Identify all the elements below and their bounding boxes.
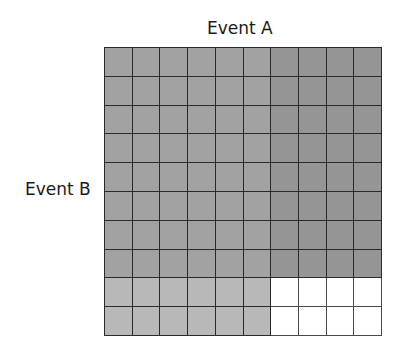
- grid-cell-A-and-B: [244, 163, 272, 192]
- grid-cell-A-and-B: [188, 192, 216, 221]
- grid-cell-B-only: [271, 192, 299, 221]
- grid-cell-A-and-B: [244, 221, 272, 250]
- grid-cell-A-and-B: [216, 134, 244, 163]
- grid-cell-A-only: [133, 307, 161, 336]
- grid-cell-A-only: [216, 278, 244, 307]
- event-a-label: Event A: [207, 20, 273, 37]
- grid-cell-B-only: [354, 163, 382, 192]
- grid-cell-A-and-B: [244, 250, 272, 279]
- grid-cell-B-only: [327, 48, 355, 77]
- grid-cell-B-only: [271, 77, 299, 106]
- grid-cell-A-only: [244, 307, 272, 336]
- grid-cell-B-only: [354, 48, 382, 77]
- grid-cell-A-and-B: [105, 134, 133, 163]
- grid-cell-neither: [271, 307, 299, 336]
- grid-cell-A-and-B: [188, 221, 216, 250]
- grid-cell-A-and-B: [244, 77, 272, 106]
- grid-cell-A-and-B: [216, 48, 244, 77]
- grid-cell-B-only: [271, 163, 299, 192]
- grid-cell-B-only: [299, 192, 327, 221]
- grid-cell-A-and-B: [188, 48, 216, 77]
- grid-cell-B-only: [354, 77, 382, 106]
- grid-cell-A-and-B: [216, 221, 244, 250]
- grid-cell-A-and-B: [160, 106, 188, 135]
- probability-grid: [104, 47, 382, 336]
- grid-cell-A-and-B: [160, 221, 188, 250]
- grid-cell-A-and-B: [244, 48, 272, 77]
- grid-cell-B-only: [271, 134, 299, 163]
- grid-cell-B-only: [299, 134, 327, 163]
- grid-cell-A-and-B: [160, 163, 188, 192]
- grid-cell-A-and-B: [133, 134, 161, 163]
- grid-cell-B-only: [271, 106, 299, 135]
- grid-cell-B-only: [354, 134, 382, 163]
- grid-cell-A-and-B: [216, 106, 244, 135]
- grid-cell-B-only: [271, 48, 299, 77]
- grid-cell-A-and-B: [133, 163, 161, 192]
- grid-cell-A-only: [216, 307, 244, 336]
- grid-cell-A-and-B: [105, 77, 133, 106]
- grid-cell-B-only: [327, 106, 355, 135]
- grid-cell-A-and-B: [188, 106, 216, 135]
- grid-cell-B-only: [327, 221, 355, 250]
- grid-cell-A-and-B: [133, 106, 161, 135]
- grid-cell-A-and-B: [160, 77, 188, 106]
- grid-cell-neither: [271, 278, 299, 307]
- grid-cell-A-and-B: [160, 134, 188, 163]
- grid-cell-A-only: [188, 278, 216, 307]
- grid-cell-A-and-B: [133, 48, 161, 77]
- grid-cell-A-and-B: [244, 134, 272, 163]
- grid-cell-A-and-B: [105, 163, 133, 192]
- grid-cell-A-and-B: [105, 221, 133, 250]
- grid-cell-neither: [354, 307, 382, 336]
- grid-cell-A-and-B: [188, 163, 216, 192]
- grid-cell-neither: [327, 307, 355, 336]
- grid-cell-B-only: [327, 163, 355, 192]
- grid-cell-A-and-B: [160, 48, 188, 77]
- grid-cell-A-only: [188, 307, 216, 336]
- grid-cell-A-only: [133, 278, 161, 307]
- grid-cell-A-and-B: [133, 77, 161, 106]
- grid-cell-A-and-B: [188, 77, 216, 106]
- grid-cell-A-and-B: [188, 250, 216, 279]
- grid-cell-A-and-B: [160, 192, 188, 221]
- grid-cell-A-and-B: [133, 221, 161, 250]
- grid-cell-B-only: [354, 192, 382, 221]
- grid-cell-B-only: [271, 221, 299, 250]
- grid-cell-B-only: [354, 106, 382, 135]
- grid-cell-B-only: [299, 48, 327, 77]
- grid-cell-neither: [354, 278, 382, 307]
- grid-cell-A-only: [105, 278, 133, 307]
- grid-cell-A-and-B: [216, 250, 244, 279]
- grid-cell-B-only: [271, 250, 299, 279]
- grid-cell-A-and-B: [105, 106, 133, 135]
- grid-cell-A-and-B: [133, 250, 161, 279]
- grid-cell-neither: [299, 307, 327, 336]
- grid-cell-A-only: [105, 307, 133, 336]
- grid-cell-A-and-B: [188, 134, 216, 163]
- grid-cell-A-only: [160, 278, 188, 307]
- grid-cell-A-and-B: [216, 163, 244, 192]
- grid-cell-B-only: [354, 221, 382, 250]
- grid-cell-A-and-B: [105, 192, 133, 221]
- grid-cell-B-only: [327, 134, 355, 163]
- grid-cell-B-only: [299, 77, 327, 106]
- grid-cell-A-and-B: [216, 77, 244, 106]
- grid-cell-B-only: [299, 250, 327, 279]
- grid-cell-B-only: [354, 250, 382, 279]
- event-b-label: Event B: [25, 181, 91, 198]
- grid-cell-neither: [327, 278, 355, 307]
- grid-cell-A-and-B: [160, 250, 188, 279]
- grid-cell-neither: [299, 278, 327, 307]
- grid-cell-A-and-B: [244, 192, 272, 221]
- grid-cell-A-and-B: [244, 106, 272, 135]
- grid-cell-A-and-B: [105, 250, 133, 279]
- grid-cell-A-and-B: [216, 192, 244, 221]
- grid-cell-B-only: [327, 77, 355, 106]
- grid-cell-A-and-B: [133, 192, 161, 221]
- grid-cell-B-only: [299, 221, 327, 250]
- grid-cell-A-only: [160, 307, 188, 336]
- grid-cell-A-and-B: [105, 48, 133, 77]
- grid-cell-A-only: [244, 278, 272, 307]
- grid-cell-B-only: [299, 106, 327, 135]
